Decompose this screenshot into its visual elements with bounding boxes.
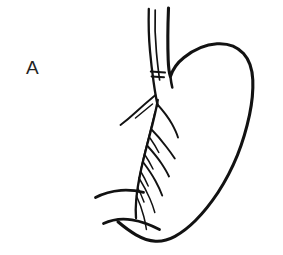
- stomach-vagus-diagram: [0, 0, 283, 255]
- crows-foot-branch-1: [157, 104, 178, 138]
- stomach-outline-path: [118, 8, 253, 241]
- duodenum-group: [96, 190, 160, 229]
- vagus-trunk-right-edge: [155, 10, 160, 80]
- figure-canvas: A: [0, 0, 283, 255]
- duodenum-lower-border: [104, 219, 160, 229]
- organ-outline-group: [118, 8, 253, 241]
- ligature-mark-lower: [152, 76, 164, 77]
- panel-label: A: [26, 58, 39, 77]
- nerve-branch-upper-left: [121, 95, 156, 125]
- ligature-mark-upper: [151, 72, 165, 73]
- vagus-nerve-trunk-group: [149, 9, 165, 106]
- crows-foot-branch-6: [137, 196, 147, 230]
- cardiac-notch-path: [170, 77, 172, 88]
- upper-nerve-division-group: [121, 95, 156, 125]
